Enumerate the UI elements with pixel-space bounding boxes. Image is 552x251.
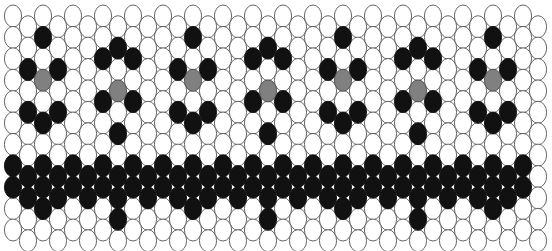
lattice-cell-empty — [454, 133, 471, 155]
lattice-cell-empty — [139, 230, 156, 251]
lattice-cell-empty — [514, 69, 531, 91]
lattice-cell-center — [109, 80, 126, 102]
lattice-cell-filled — [394, 155, 411, 177]
lattice-cell-empty — [154, 5, 171, 27]
lattice-cell-filled — [349, 59, 366, 81]
lattice-cell-empty — [154, 112, 171, 134]
lattice-cell-empty — [229, 230, 246, 251]
lattice-cell-empty — [244, 26, 261, 48]
lattice-cell-filled — [94, 48, 111, 70]
lattice-cell-empty — [214, 133, 231, 155]
lattice-cell-empty — [79, 80, 96, 102]
lattice-cell-empty — [319, 230, 336, 251]
lattice-cell-empty — [469, 37, 486, 59]
lattice-cell-empty — [199, 123, 216, 145]
lattice-cell-empty — [19, 144, 36, 166]
lattice-cell-filled — [64, 176, 81, 198]
lattice-cell-empty — [514, 5, 531, 27]
lattice-cell-empty — [289, 59, 306, 81]
lattice-cell-empty — [379, 16, 396, 38]
lattice-cell-empty — [4, 133, 21, 155]
lattice-cell-empty — [394, 26, 411, 48]
lattice-cell-filled — [79, 166, 96, 188]
lattice-cell-empty — [454, 48, 471, 70]
lattice-cell-filled — [229, 166, 246, 188]
lattice-cell-empty — [529, 80, 546, 102]
lattice-cell-filled — [244, 91, 261, 113]
lattice-cell-empty — [64, 48, 81, 70]
lattice-cell-filled — [49, 187, 66, 209]
lattice-cell-empty — [394, 69, 411, 91]
lattice-cell-empty — [109, 144, 126, 166]
lattice-cell-center — [34, 69, 51, 91]
lattice-cell-empty — [469, 144, 486, 166]
lattice-cell-empty — [439, 123, 456, 145]
lattice-cell-empty — [214, 5, 231, 27]
lattice-cell-empty — [4, 5, 21, 27]
lattice-cell-filled — [19, 166, 36, 188]
lattice-cell-empty — [199, 230, 216, 251]
lattice-cell-empty — [424, 133, 441, 155]
lattice-cell-filled — [319, 59, 336, 81]
lattice-cell-empty — [529, 144, 546, 166]
lattice-cell-empty — [64, 219, 81, 241]
lattice-cell-empty — [514, 48, 531, 70]
lattice-canvas — [0, 0, 552, 251]
lattice-cell-empty — [259, 101, 276, 123]
lattice-cell-filled — [484, 26, 501, 48]
lattice-cell-filled — [499, 101, 516, 123]
lattice-cell-empty — [244, 5, 261, 27]
lattice-cell-empty — [124, 69, 141, 91]
lattice-cell-empty — [274, 69, 291, 91]
lattice-cell-filled — [139, 166, 156, 188]
lattice-cell-empty — [199, 208, 216, 230]
lattice-cell-empty — [19, 16, 36, 38]
lattice-cell-empty — [214, 26, 231, 48]
lattice-cell-filled — [19, 187, 36, 209]
lattice-cell-empty — [49, 16, 66, 38]
lattice-cell-filled — [94, 176, 111, 198]
lattice-cell-empty — [529, 101, 546, 123]
lattice-cell-center — [334, 69, 351, 91]
lattice-cell-empty — [304, 69, 321, 91]
lattice-cell-empty — [499, 123, 516, 145]
lattice-cell-filled — [4, 155, 21, 177]
lattice-cell-filled — [334, 26, 351, 48]
lattice-cell-empty — [4, 219, 21, 241]
lattice-cell-filled — [109, 123, 126, 145]
lattice-cell-empty — [34, 48, 51, 70]
lattice-cell-empty — [4, 198, 21, 220]
lattice-cell-empty — [484, 48, 501, 70]
lattice-cell-empty — [304, 91, 321, 113]
lattice-cell-empty — [109, 101, 126, 123]
lattice-cell-empty — [124, 133, 141, 155]
lattice-cell-empty — [19, 208, 36, 230]
lattice-cell-empty — [274, 133, 291, 155]
lattice-cell-empty — [154, 69, 171, 91]
lattice-cell-empty — [124, 26, 141, 48]
lattice-cell-filled — [454, 155, 471, 177]
lattice-cell-empty — [409, 59, 426, 81]
lattice-cell-empty — [34, 5, 51, 27]
lattice-cell-empty — [484, 133, 501, 155]
lattice-cell-empty — [304, 219, 321, 241]
lattice-cell-empty — [274, 198, 291, 220]
lattice-cell-empty — [334, 133, 351, 155]
lattice-cell-empty — [454, 5, 471, 27]
lattice-cell-filled — [109, 187, 126, 209]
lattice-cell-empty — [364, 5, 381, 27]
lattice-cell-empty — [349, 230, 366, 251]
lattice-cell-empty — [439, 208, 456, 230]
lattice-cell-empty — [259, 59, 276, 81]
lattice-cell-filled — [109, 208, 126, 230]
lattice-cell-empty — [289, 208, 306, 230]
lattice-cell-empty — [529, 16, 546, 38]
lattice-cell-empty — [34, 91, 51, 113]
lattice-cell-filled — [259, 37, 276, 59]
lattice-cell-empty — [394, 112, 411, 134]
lattice-cell-empty — [169, 16, 186, 38]
lattice-cell-filled — [214, 155, 231, 177]
lattice-cell-empty — [499, 37, 516, 59]
lattice-cell-empty — [214, 48, 231, 70]
lattice-cell-empty — [469, 123, 486, 145]
